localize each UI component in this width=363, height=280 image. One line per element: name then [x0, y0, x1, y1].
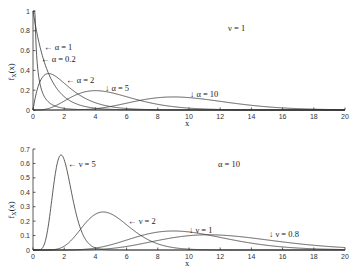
y-tick-label: 0 [26, 107, 30, 114]
y-tick-label: 0.5 [20, 174, 30, 181]
x-tick-label: 6 [125, 113, 129, 120]
y-tick-label: 0.2 [20, 218, 30, 225]
series-label-nu-2: ← ν = 2 [128, 216, 156, 226]
series-label-alpha-0.2: ← α = 0.2 [41, 54, 76, 64]
x-tick-label: 14 [248, 253, 256, 260]
series-label-alpha-10: ↓ α = 10 [190, 89, 218, 99]
top-annotation: ν = 1 [228, 23, 245, 33]
series-label-alpha-2: ← α = 2 [66, 75, 94, 85]
series-label-nu-0.8: ↓ ν = 0.8 [269, 229, 299, 239]
x-tick-label: 14 [248, 113, 256, 120]
y-tick-label: 0.8 [20, 27, 30, 34]
x-tick-label: 20 [341, 253, 349, 260]
top-plot: 0246810121416182000.20.40.60.81 ν = 1 ← … [6, 8, 349, 129]
top-curves [33, 11, 345, 110]
y-tick-label: 0.2 [20, 87, 30, 94]
top-ylabel: fX(x) [6, 63, 17, 80]
y-tick-label: 0.4 [20, 189, 30, 196]
bottom-plot: 0246810121416182000.10.20.30.40.50.60.7 … [6, 146, 349, 269]
svg-text:fX(x): fX(x) [6, 63, 17, 80]
x-tick-label: 16 [279, 113, 287, 120]
y-tick-label: 0.7 [20, 146, 30, 153]
x-tick-label: 0 [31, 113, 35, 120]
y-tick-label: 0.4 [20, 67, 30, 74]
series-label-nu-5: ← ν = 5 [68, 159, 96, 169]
y-tick-label: 0.6 [20, 47, 30, 54]
x-tick-label: 12 [216, 113, 224, 120]
x-tick-label: 18 [310, 113, 318, 120]
x-tick-label: 6 [125, 253, 129, 260]
y-tick-label: 0.1 [20, 232, 30, 239]
y-tick-label: 0.6 [20, 160, 30, 167]
x-tick-label: 20 [341, 113, 349, 120]
x-tick-label: 18 [310, 253, 318, 260]
gamma-pdf-figure: 0246810121416182000.20.40.60.81 ν = 1 ← … [0, 0, 363, 280]
x-tick-label: 12 [216, 253, 224, 260]
x-tick-label: 8 [156, 253, 160, 260]
x-tick-label: 16 [279, 253, 287, 260]
curve-α5 [33, 91, 345, 110]
x-tick-label: 2 [62, 113, 66, 120]
bottom-annotation: α = 10 [218, 159, 240, 169]
series-label-alpha-1: ← α = 1 [44, 42, 72, 52]
x-tick-label: 8 [156, 113, 160, 120]
x-tick-label: 2 [62, 253, 66, 260]
svg-text:fX(x): fX(x) [6, 201, 17, 218]
x-tick-label: 0 [31, 253, 35, 260]
y-tick-label: 0 [26, 247, 30, 254]
x-tick-label: 4 [93, 253, 97, 260]
y-tick-label: 0.3 [20, 203, 30, 210]
x-tick-label: 4 [93, 113, 97, 120]
y-tick-label: 1 [26, 8, 30, 15]
series-label-nu-1: ↓ ν = 1 [189, 225, 213, 235]
series-label-alpha-5: ↓ α = 5 [105, 83, 129, 93]
bottom-ylabel: fX(x) [6, 201, 17, 218]
